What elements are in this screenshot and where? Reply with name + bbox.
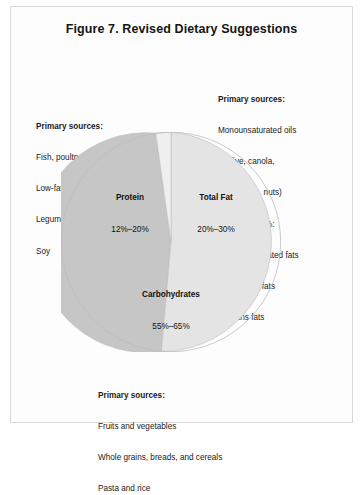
annotation-total-fat-heading: Primary sources: [218, 95, 299, 105]
pie-label-total-fat-name: Total Fat [176, 193, 256, 204]
pie-label-protein-value: 12%–20% [92, 225, 168, 236]
figure-title: Figure 7. Revised Dietary Suggestions [0, 22, 363, 36]
pie-label-protein: Protein 12%–20% [92, 172, 168, 257]
pie-label-total-fat-value: 20%–30% [176, 225, 256, 236]
pie-label-total-fat: Total Fat 20%–30% [176, 172, 256, 257]
annotation-protein-heading: Primary sources: [36, 122, 121, 132]
pie-label-carbohydrates: Carbohydrates 55%–65% [111, 269, 231, 354]
annotation-carbohydrates: Primary sources: Fruits and vegetables W… [98, 370, 222, 495]
annotation-carbohydrates-line-2: Whole grains, breads, and cereals [98, 453, 222, 463]
annotation-carbohydrates-line-1: Fruits and vegetables [98, 422, 222, 432]
pie-label-carbohydrates-name: Carbohydrates [111, 290, 231, 301]
annotation-carbohydrates-line-3: Pasta and rice [98, 484, 222, 494]
pie-label-protein-name: Protein [92, 193, 168, 204]
annotation-carbohydrates-heading: Primary sources: [98, 391, 222, 401]
pie-label-carbohydrates-value: 55%–65% [111, 322, 231, 333]
